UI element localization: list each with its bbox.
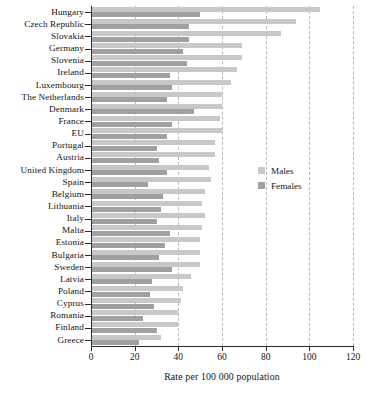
y-axis-tick bbox=[85, 49, 91, 50]
category-label: Belgium bbox=[52, 189, 84, 199]
y-axis-tick bbox=[85, 97, 91, 98]
y-axis-tick bbox=[85, 73, 91, 74]
y-axis-tick bbox=[85, 304, 91, 305]
category-label: Poland bbox=[58, 286, 84, 296]
x-axis-tick bbox=[135, 346, 136, 351]
x-axis-tick bbox=[309, 346, 310, 351]
category-label: Greece bbox=[57, 335, 84, 345]
bar-males bbox=[91, 225, 202, 230]
category-label: Portugal bbox=[52, 140, 84, 150]
y-axis-tick bbox=[85, 12, 91, 13]
x-axis-tick-label: 80 bbox=[251, 352, 281, 362]
y-axis-tick bbox=[85, 146, 91, 147]
y-axis-tick bbox=[85, 170, 91, 171]
bar-females bbox=[91, 219, 157, 224]
bar-females bbox=[91, 61, 187, 66]
bar-females bbox=[91, 328, 157, 333]
bar-females bbox=[91, 267, 172, 272]
bar-females bbox=[91, 97, 167, 102]
y-axis-tick bbox=[85, 219, 91, 220]
bar-females bbox=[91, 146, 157, 151]
bar-males bbox=[91, 104, 222, 109]
bar-males bbox=[91, 274, 191, 279]
category-label: Latvia bbox=[60, 274, 84, 284]
y-axis-tick bbox=[85, 158, 91, 159]
bar-females bbox=[91, 231, 170, 236]
y-axis-tick bbox=[85, 109, 91, 110]
x-axis-tick-label: 40 bbox=[163, 352, 193, 362]
category-label: Finland bbox=[55, 322, 84, 332]
plot-area bbox=[91, 6, 353, 346]
bar-males bbox=[91, 286, 183, 291]
legend-swatch-females-icon bbox=[258, 182, 265, 189]
bar-females bbox=[91, 194, 163, 199]
y-axis-tick bbox=[85, 340, 91, 341]
y-axis-tick bbox=[85, 231, 91, 232]
x-axis-tick bbox=[91, 346, 92, 351]
y-axis-tick bbox=[85, 85, 91, 86]
bar-females bbox=[91, 134, 167, 139]
bar-females bbox=[91, 279, 152, 284]
x-axis-tick bbox=[178, 346, 179, 351]
y-axis-tick bbox=[85, 134, 91, 135]
category-label: Czech Republic bbox=[24, 19, 84, 29]
category-label: Slovakia bbox=[51, 31, 84, 41]
category-label: Germany bbox=[49, 43, 84, 53]
bar-males bbox=[91, 128, 222, 133]
category-label: Slovenia bbox=[51, 55, 84, 65]
category-label: Cyprus bbox=[57, 298, 84, 308]
bar-males bbox=[91, 116, 220, 121]
y-axis-tick bbox=[85, 36, 91, 37]
bar-males bbox=[91, 67, 237, 72]
y-axis-tick bbox=[85, 291, 91, 292]
bar-females bbox=[91, 37, 189, 42]
y-axis-line bbox=[91, 6, 92, 346]
bar-males bbox=[91, 19, 296, 24]
x-axis-tick bbox=[266, 346, 267, 351]
bar-females bbox=[91, 85, 172, 90]
bar-females bbox=[91, 304, 154, 309]
category-label: The Netherlands bbox=[22, 92, 84, 102]
bar-males bbox=[91, 55, 242, 60]
category-label: Bulgaria bbox=[52, 250, 84, 260]
category-axis-labels: HungaryCzech RepublicSlovakiaGermanySlov… bbox=[0, 6, 88, 346]
y-axis-tick bbox=[85, 182, 91, 183]
bar-males bbox=[91, 80, 231, 85]
bar-females bbox=[91, 109, 194, 114]
bar-males bbox=[91, 189, 205, 194]
x-axis-title: Rate per 100 000 population bbox=[91, 371, 353, 382]
category-label: Luxembourg bbox=[36, 80, 84, 90]
bar-males bbox=[91, 335, 161, 340]
bar-males bbox=[91, 322, 178, 327]
bar-females bbox=[91, 243, 165, 248]
x-axis-tick-label: 100 bbox=[294, 352, 324, 362]
chart-legend: Males Females bbox=[258, 163, 302, 193]
y-axis-tick bbox=[85, 206, 91, 207]
bar-females bbox=[91, 73, 170, 78]
category-label: Romania bbox=[50, 310, 84, 320]
x-axis-tick-label: 120 bbox=[338, 352, 368, 362]
bar-females bbox=[91, 49, 183, 54]
legend-label-males: Males bbox=[271, 166, 293, 176]
legend-label-females: Females bbox=[271, 181, 302, 191]
category-label: Spain bbox=[63, 177, 84, 187]
category-label: Denmark bbox=[49, 104, 84, 114]
bar-females bbox=[91, 170, 167, 175]
legend-item-males: Males bbox=[258, 163, 302, 178]
gridline bbox=[353, 6, 354, 346]
bar-males bbox=[91, 7, 320, 12]
x-axis-tick bbox=[353, 346, 354, 351]
bar-females bbox=[91, 182, 148, 187]
bar-males bbox=[91, 165, 209, 170]
category-label: Hungary bbox=[51, 7, 84, 17]
y-axis-tick bbox=[85, 121, 91, 122]
bar-females bbox=[91, 340, 139, 345]
category-label: EU bbox=[72, 128, 84, 138]
bar-chart: HungaryCzech RepublicSlovakiaGermanySlov… bbox=[0, 0, 370, 396]
category-label: Lithuania bbox=[48, 201, 84, 211]
bar-females bbox=[91, 207, 161, 212]
y-axis-tick bbox=[85, 61, 91, 62]
x-axis-tick-label: 60 bbox=[207, 352, 237, 362]
bar-males bbox=[91, 250, 200, 255]
bar-males bbox=[91, 92, 222, 97]
